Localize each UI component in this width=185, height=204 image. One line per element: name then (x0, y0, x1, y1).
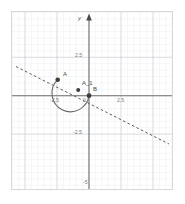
x-tick-label-neg2p5: -2.5 (50, 98, 59, 103)
point-a-label: A (63, 71, 67, 77)
figure-canvas: y 2.5 -2.5 -5 -2.5 2.5 0 A A_1 B (0, 0, 185, 204)
y-axis-label: y (78, 15, 81, 21)
dashed-line (16, 67, 169, 145)
figure-frame: y 2.5 -2.5 -5 -2.5 2.5 0 A A_1 B (11, 11, 173, 190)
y-tick-label-neg2p5: -2.5 (73, 130, 82, 135)
origin-label: 0 (83, 98, 86, 103)
y-axis-arrow-icon (86, 14, 92, 21)
coordinate-plot: y 2.5 -2.5 -5 -2.5 2.5 0 A A_1 B (12, 12, 172, 189)
y-tick-label-2p5: 2.5 (75, 53, 82, 58)
x-tick-label-2p5: 2.5 (117, 98, 124, 103)
point-a1[interactable] (76, 88, 80, 92)
major-gridlines (12, 12, 172, 189)
y-tick-label-neg5: -5 (83, 180, 88, 185)
point-b[interactable] (87, 93, 92, 98)
point-a[interactable] (55, 77, 60, 82)
point-a1-label: A_1 (82, 80, 93, 86)
point-b-label: B (93, 86, 97, 92)
plot-svg (12, 12, 172, 189)
minor-gridlines (12, 12, 172, 189)
